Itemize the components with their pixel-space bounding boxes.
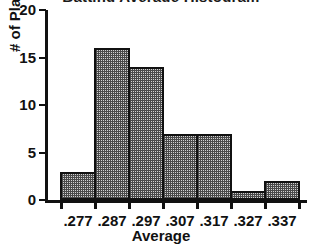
- x-axis-tick: [94, 200, 97, 209]
- x-axis-tick: [60, 200, 63, 209]
- y-axis-tick: [39, 57, 46, 59]
- y-axis-tick-label: 15: [19, 50, 36, 65]
- histogram-chart: Batting Average Histogram # of Players 0…: [0, 0, 322, 250]
- x-axis-tick: [264, 200, 267, 209]
- y-axis-tick-label: 0: [28, 192, 36, 207]
- plot-area: 05101520.277.287.297.307.317.327.337: [45, 10, 307, 200]
- histogram-bar: [230, 191, 266, 201]
- y-axis-tick-label: 10: [19, 97, 36, 112]
- histogram-bar: [60, 172, 96, 201]
- x-axis-tick: [162, 200, 165, 209]
- histogram-bar: [94, 48, 130, 200]
- histogram-bar: [196, 134, 232, 201]
- y-axis-tick: [39, 9, 46, 11]
- y-axis-tick: [39, 104, 46, 106]
- chart-title: Batting Average Histogram: [0, 0, 322, 2]
- histogram-bar: [128, 67, 164, 200]
- x-axis-tick-label: .337: [258, 213, 306, 228]
- x-axis-tick: [128, 200, 131, 209]
- histogram-bar: [264, 181, 300, 200]
- y-axis-tick-label: 20: [19, 2, 36, 17]
- y-axis-label-wrap: # of Players: [14, 0, 15, 250]
- y-axis-tick-label: 5: [28, 145, 36, 160]
- x-axis-label: Average: [0, 228, 322, 243]
- x-axis-tick: [196, 200, 199, 209]
- x-axis-tick: [298, 200, 301, 209]
- x-axis-line: [45, 200, 307, 203]
- y-axis-tick: [39, 199, 46, 201]
- y-axis-tick: [39, 152, 46, 154]
- x-axis-tick: [230, 200, 233, 209]
- histogram-bar: [162, 134, 198, 201]
